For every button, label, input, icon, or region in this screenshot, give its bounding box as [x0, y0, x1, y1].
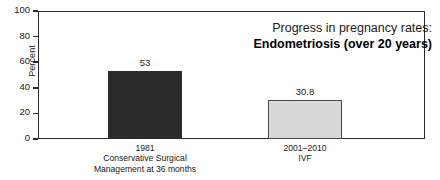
x-category-label-2: 2001–2010 IVF [245, 143, 365, 164]
bar-1981-conservative-surgical [108, 71, 182, 139]
x-category-1-line3: Management at 36 months [55, 164, 235, 174]
chart-title: Progress in pregnancy rates: Endometrios… [253, 20, 432, 52]
y-tick-label-100: 100 [14, 4, 30, 15]
chart-title-line1: Progress in pregnancy rates: [253, 20, 432, 36]
y-tick-label-60: 60 [19, 55, 30, 66]
y-tick-label-40: 40 [19, 81, 30, 92]
bar-value-label-1: 53 [108, 57, 182, 68]
bar-2001-2010-ivf [268, 100, 342, 139]
x-category-2-line1: 2001–2010 [245, 143, 365, 153]
bar-value-label-2: 30.8 [268, 86, 342, 97]
y-tick-label-0: 0 [25, 132, 30, 143]
x-category-1-line2: Conservative Surgical [55, 153, 235, 163]
x-category-label-1: 1981 Conservative Surgical Management at… [55, 143, 235, 174]
x-category-2-line2: IVF [245, 153, 365, 163]
y-tick-label-20: 20 [19, 106, 30, 117]
bar-chart-figure: Percent 0 20 40 60 80 100 Progress in pr… [0, 0, 440, 180]
y-tick-label-80: 80 [19, 30, 30, 41]
x-category-1-line1: 1981 [55, 143, 235, 153]
chart-title-line2: Endometriosis (over 20 years) [253, 36, 432, 52]
